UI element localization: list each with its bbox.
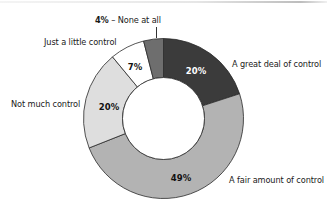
label-fair-amount: A fair amount of control (229, 176, 324, 184)
label-none-at-all-text: None at all (118, 15, 161, 25)
pct-great-deal: 20% (186, 67, 206, 76)
pct-fair-amount: 49% (171, 174, 191, 183)
label-sep: – (109, 15, 118, 25)
pct-not-much: 20% (99, 103, 119, 112)
label-not-much: Not much control (11, 100, 80, 108)
label-great-deal: A great deal of control (232, 60, 321, 68)
leader-line-none-at-all (156, 27, 157, 38)
label-none-at-all-pct: 4% (95, 15, 109, 25)
pct-just-a-little: 7% (128, 63, 142, 72)
label-none-at-all: 4% – None at all (95, 16, 161, 24)
label-just-a-little: Just a little control (44, 38, 116, 46)
donut-hole (123, 78, 205, 160)
